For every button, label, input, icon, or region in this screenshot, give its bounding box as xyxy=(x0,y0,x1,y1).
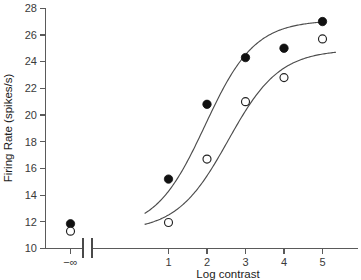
y-tick-label: 22 xyxy=(25,82,37,94)
y-tick-label: 10 xyxy=(25,242,37,254)
data-point xyxy=(203,155,211,163)
data-point xyxy=(203,100,211,108)
y-tick-label: 16 xyxy=(25,162,37,174)
x-axis-ticks xyxy=(71,249,323,255)
x-tick-label: 5 xyxy=(319,256,325,268)
y-tick-label: 20 xyxy=(25,109,37,121)
y-tick-label: 26 xyxy=(25,29,37,41)
y-tick-label: 18 xyxy=(25,136,37,148)
y-tick-label: 24 xyxy=(25,55,37,67)
x-tick-label: 4 xyxy=(281,256,287,268)
data-point xyxy=(165,218,173,226)
data-point xyxy=(318,17,326,25)
y-axis-title: Firing Rate (spikes/s) xyxy=(2,74,14,183)
x-tick-label: 1 xyxy=(165,256,171,268)
axis-break-gap xyxy=(84,243,91,254)
x-tick-label: 2 xyxy=(204,256,210,268)
y-axis-tick-labels: 10 12 14 16 18 20 22 24 26 28 xyxy=(25,2,37,254)
data-point xyxy=(280,74,288,82)
filled-data-points xyxy=(66,17,326,228)
lower-fit-curve xyxy=(145,52,336,224)
open-data-points xyxy=(67,35,327,235)
data-point xyxy=(164,175,172,183)
upper-fit-curve xyxy=(145,22,324,214)
contrast-response-chart: 10 12 14 16 18 20 22 24 26 28 xyxy=(0,0,361,280)
x-axis-tick-labels: −∞ 1 2 3 4 5 xyxy=(63,256,325,268)
y-tick-label: 28 xyxy=(25,2,37,14)
data-point xyxy=(67,227,75,235)
data-point xyxy=(319,35,327,43)
data-point xyxy=(242,98,250,106)
y-axis-ticks xyxy=(40,8,46,248)
x-tick-label-neg-inf: −∞ xyxy=(63,256,77,268)
y-tick-label: 12 xyxy=(25,216,37,228)
data-point xyxy=(241,53,249,61)
figure-container: 10 12 14 16 18 20 22 24 26 28 xyxy=(0,0,361,280)
data-point xyxy=(280,44,288,52)
x-axis-break xyxy=(83,238,92,258)
x-axis-title: Log contrast xyxy=(196,268,260,280)
x-tick-label: 3 xyxy=(242,256,248,268)
y-tick-label: 14 xyxy=(25,189,37,201)
